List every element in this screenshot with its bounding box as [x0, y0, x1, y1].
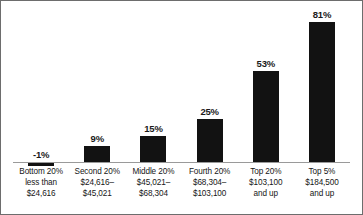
bar-rect — [309, 22, 335, 162]
tick-line: $24,616– — [69, 177, 125, 188]
x-axis-line — [13, 162, 350, 163]
tick-line: Top 5% — [294, 166, 350, 177]
bar-chart-figure: -1% 9% 15% 25% 53% 81% — [0, 0, 363, 215]
x-tick-label-second-20: Second 20% $24,616– $45,021 — [69, 166, 125, 200]
bar-slot-top-20: 53% — [238, 7, 294, 162]
x-axis-tick-labels: Bottom 20% less than $24,616 Second 20% … — [13, 166, 350, 200]
bar-value-label: 9% — [91, 133, 104, 144]
tick-line: $103,100 — [238, 177, 294, 188]
tick-line: $184,500 — [294, 177, 350, 188]
bar-slot-fourth-20: 25% — [182, 7, 238, 162]
tick-line: $45,021– — [125, 177, 181, 188]
bar-slot-second-20: 9% — [69, 7, 125, 162]
tick-line: Bottom 20% — [13, 166, 69, 177]
bar-rect — [84, 146, 110, 162]
tick-line: less than — [13, 177, 69, 188]
tick-line: Fourth 20% — [182, 166, 238, 177]
tick-line: $24,616 — [13, 188, 69, 199]
tick-line: $103,100 — [182, 188, 238, 199]
bar-value-label: 81% — [313, 9, 331, 20]
tick-line: Top 20% — [238, 166, 294, 177]
bar-value-label: 53% — [257, 58, 275, 69]
bar-rect — [197, 119, 223, 162]
bar-rect — [253, 71, 279, 162]
plot-area: -1% 9% 15% 25% 53% 81% — [13, 7, 350, 162]
tick-line: Middle 20% — [125, 166, 181, 177]
bar-value-label: -1% — [33, 149, 49, 160]
tick-line: $45,021 — [69, 188, 125, 199]
x-tick-label-top-5: Top 5% $184,500 and up — [294, 166, 350, 200]
bar-rect — [140, 136, 166, 162]
bar-slot-middle-20: 15% — [125, 7, 181, 162]
x-tick-label-middle-20: Middle 20% $45,021– $68,304 — [125, 166, 181, 200]
bar-slot-bottom-20: -1% — [13, 7, 69, 162]
bar-value-label: 25% — [200, 106, 218, 117]
tick-line: and up — [238, 188, 294, 199]
tick-line: $68,304 — [125, 188, 181, 199]
x-tick-label-top-20: Top 20% $103,100 and up — [238, 166, 294, 200]
bar-slot-top-5: 81% — [294, 7, 350, 162]
bar-value-label: 15% — [144, 123, 162, 134]
bar-series: -1% 9% 15% 25% 53% 81% — [13, 7, 350, 162]
tick-line: and up — [294, 188, 350, 199]
tick-line: $68,304– — [182, 177, 238, 188]
x-tick-label-fourth-20: Fourth 20% $68,304– $103,100 — [182, 166, 238, 200]
x-tick-label-bottom-20: Bottom 20% less than $24,616 — [13, 166, 69, 200]
tick-line: Second 20% — [69, 166, 125, 177]
